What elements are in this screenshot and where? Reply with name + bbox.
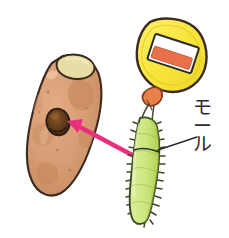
illustration-canvas: モ ー ル	[0, 0, 229, 238]
pipe-cleaner-brush	[126, 114, 165, 227]
label-char-mo: モ	[193, 98, 212, 117]
sweet-potato-cut-end	[57, 55, 95, 79]
sweet-potato	[27, 55, 102, 196]
label-char-ru: ル	[193, 135, 212, 154]
pipe-cleaner-label: モ ー ル	[189, 98, 215, 154]
bottle-nozzle	[142, 87, 162, 110]
